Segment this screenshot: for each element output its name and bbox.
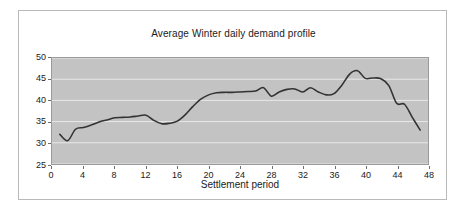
x-axis-tick-mark	[429, 166, 430, 169]
x-axis-tick-mark	[146, 166, 147, 169]
plot-area	[51, 57, 429, 165]
y-axis-tick-label: 40	[18, 96, 46, 105]
x-axis-tick-mark	[209, 166, 210, 169]
gridlines	[52, 58, 428, 164]
x-axis-tick-mark	[177, 166, 178, 169]
y-axis-tick-mark	[48, 122, 51, 123]
y-axis-tick-mark	[48, 143, 51, 144]
x-axis-tick-mark	[335, 166, 336, 169]
x-axis-tick-mark	[303, 166, 304, 169]
x-axis-tick-mark	[51, 166, 52, 169]
plot-svg	[52, 58, 428, 164]
y-axis-tick-mark	[48, 100, 51, 101]
x-axis-title: Settlement period	[51, 179, 429, 190]
y-axis-tick-label: 25	[18, 161, 46, 170]
x-axis-tick-mark	[398, 166, 399, 169]
y-axis-tick-label: 45	[18, 74, 46, 83]
y-axis-tick-label: 30	[18, 139, 46, 148]
x-axis-tick-mark	[83, 166, 84, 169]
y-axis-tick-mark	[48, 79, 51, 80]
series-path	[60, 71, 420, 141]
x-axis-tick-mark	[366, 166, 367, 169]
y-axis-tick-label: 35	[18, 117, 46, 126]
chart-figure: Average Winter daily demand profile 2530…	[18, 10, 447, 200]
x-axis-tick-mark	[272, 166, 273, 169]
chart-title: Average Winter daily demand profile	[19, 28, 448, 39]
data-series-line	[60, 71, 420, 141]
y-axis-tick-label: 50	[18, 53, 46, 62]
x-axis-tick-mark	[240, 166, 241, 169]
x-axis-tick-mark	[114, 166, 115, 169]
y-axis-tick-mark	[48, 57, 51, 58]
